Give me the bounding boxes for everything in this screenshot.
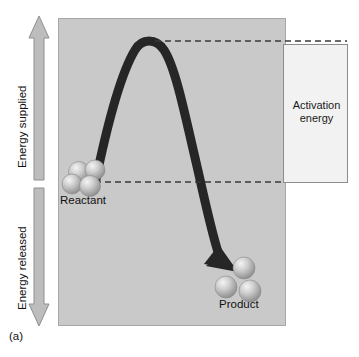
energy-supplied-arrow	[27, 14, 51, 182]
reactant-label: Reactant	[60, 194, 106, 206]
energy-released-arrow	[27, 186, 51, 328]
arrow-up-icon	[29, 16, 49, 180]
reaction-panel	[58, 18, 286, 326]
arrow-down-icon	[29, 188, 49, 326]
activation-energy-line2: energy	[300, 112, 334, 124]
activation-energy-box: Activation energy	[283, 44, 348, 183]
energy-diagram-figure: Energy supplied Energy released	[0, 0, 359, 357]
activation-energy-label: Activation energy	[284, 99, 349, 125]
activation-energy-line1: Activation	[293, 99, 341, 111]
figure-part-label: (a)	[9, 330, 23, 342]
product-label: Product	[219, 298, 259, 310]
energy-released-label: Energy released	[16, 226, 28, 310]
energy-supplied-label: Energy supplied	[16, 86, 28, 168]
